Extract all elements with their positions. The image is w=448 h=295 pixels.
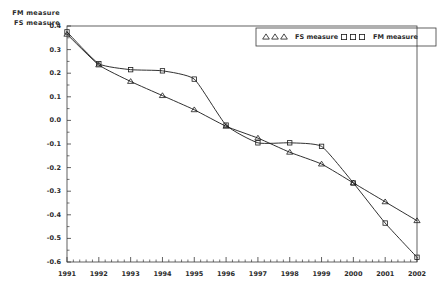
- legend-marker-square: [350, 34, 355, 39]
- x-tick-label: 1991: [50, 270, 84, 278]
- legend-marker-triangle: [263, 34, 270, 39]
- y-tick-label: 0.0: [35, 116, 61, 124]
- series-fs-measure: [64, 31, 420, 222]
- legend-marker-triangle: [281, 34, 288, 39]
- legend-marker-triangle: [272, 34, 279, 39]
- legend-label-fm: FM measure: [373, 33, 418, 41]
- x-tick-label: 2001: [368, 270, 402, 278]
- y-tick-label: -0.2: [35, 164, 61, 172]
- legend-marker-square: [359, 34, 364, 39]
- x-tick-label: 1993: [114, 270, 148, 278]
- x-axis-tick-marks: [67, 257, 417, 262]
- x-tick-label: 2002: [400, 270, 434, 278]
- x-tick-label: 1995: [177, 270, 211, 278]
- y-tick-label: 0.3: [35, 46, 61, 54]
- x-tick-label: 1998: [273, 270, 307, 278]
- data-series-layer: [64, 30, 420, 260]
- plot-frame: [67, 26, 417, 262]
- y-tick-label: -0.3: [35, 187, 61, 195]
- y-axis-title-fm: FM measure: [8, 9, 60, 17]
- chart-legend: FS measureFM measure: [256, 28, 436, 46]
- series-fm-measure: [65, 30, 419, 260]
- y-tick-label: 0.2: [35, 69, 61, 77]
- x-tick-label: 1992: [82, 270, 116, 278]
- x-tick-label: 1996: [209, 270, 243, 278]
- x-tick-label: 1999: [305, 270, 339, 278]
- y-tick-label: -0.6: [35, 258, 61, 266]
- y-tick-label: -0.1: [35, 140, 61, 148]
- x-tick-label: 2000: [336, 270, 370, 278]
- legend-marker-square: [341, 34, 346, 39]
- x-tick-label: 1994: [145, 270, 179, 278]
- x-tick-label: 1997: [241, 270, 275, 278]
- y-tick-label: 0.1: [35, 93, 61, 101]
- y-tick-label: 0.4: [35, 22, 61, 30]
- y-tick-label: -0.4: [35, 211, 61, 219]
- y-tick-label: -0.5: [35, 234, 61, 242]
- y-axis-tick-marks: [67, 26, 71, 262]
- chart-figure: FS measureFM measure: [0, 0, 448, 295]
- legend-label-fs: FS measure: [295, 33, 339, 41]
